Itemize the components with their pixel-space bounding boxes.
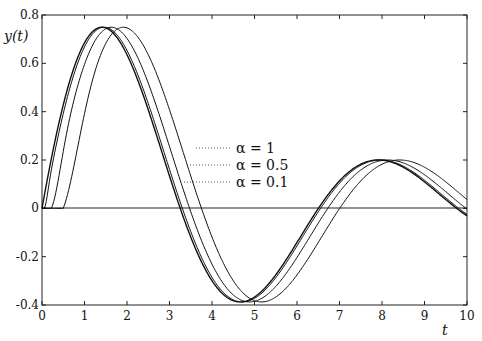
y-tick-label: 0.4 <box>20 105 39 119</box>
x-tick-label: 2 <box>123 309 131 323</box>
y-tick-label: 0.6 <box>20 56 39 70</box>
x-tick-label: 8 <box>378 309 386 323</box>
x-tick-label: 6 <box>293 309 301 323</box>
legend-item: α = 1 <box>236 140 275 156</box>
legend-item: α = 0.1 <box>236 174 288 190</box>
y-tick-label: -0.2 <box>16 250 39 264</box>
legend: α = 1α = 0.5α = 0.1 <box>184 140 288 190</box>
x-tick-label: 9 <box>421 309 429 323</box>
legend-item: α = 0.5 <box>236 157 288 173</box>
x-tick-label: 7 <box>336 309 344 323</box>
x-tick-label: 3 <box>166 309 174 323</box>
chart: 012345678910-0.4-0.200.20.40.60.8 α = 1α… <box>0 0 482 341</box>
x-tick-label: 1 <box>81 309 89 323</box>
y-tick-label: 0 <box>31 201 39 215</box>
x-tick-label: 5 <box>251 309 259 323</box>
y-tick-label: 0.8 <box>20 8 39 22</box>
x-tick-label: 4 <box>208 309 216 323</box>
x-tick-label: 10 <box>459 309 474 323</box>
x-axis-label: t <box>442 322 448 338</box>
y-tick-label: -0.4 <box>16 298 40 312</box>
y-axis-label: y(t) <box>3 28 28 44</box>
y-tick-label: 0.2 <box>20 153 39 167</box>
x-tick-label: 0 <box>38 309 46 323</box>
